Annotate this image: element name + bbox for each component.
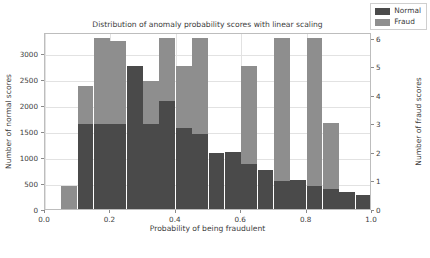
y-tick-left [41,184,44,185]
bar-normal [143,124,159,209]
x-tick [240,210,241,213]
bar-normal [339,192,355,209]
x-tick [371,210,372,213]
bar-normal [225,152,241,209]
legend-item-fraud: Fraud [375,18,421,26]
bar-normal [274,181,290,209]
y-tick-label-left: 2000 [0,101,38,110]
x-tick-label: 0.8 [300,215,311,224]
plot-area [44,33,371,210]
y-tick-label-left: 1000 [0,153,38,162]
y-tick-left [41,54,44,55]
y-tick-right [371,96,374,97]
y-tick-right [371,39,374,40]
y-tick-label-right: 5 [376,63,381,72]
legend-swatch-fraud [375,19,390,26]
y-tick-right [371,67,374,68]
y-tick-label-right: 1 [376,177,381,186]
bar-normal [159,101,175,209]
bar-normal [307,186,323,209]
y-tick-label-right: 3 [376,120,381,129]
y-tick-right [371,181,374,182]
y-tick-left [41,80,44,81]
bar-normal [192,134,208,209]
bar-fraud [61,186,77,209]
bar-fraud [307,38,323,209]
y-tick-label-left: 3000 [0,49,38,58]
legend-label-normal: Normal [394,7,421,15]
y-tick-label-left: 500 [0,179,38,188]
x-tick-label: 0.2 [104,215,115,224]
y-tick-left [41,132,44,133]
bar-normal [290,180,306,209]
y-tick-label-right: 4 [376,91,381,100]
bar-normal [110,124,126,209]
y-axis-title-right: Number of fraud scores [412,33,424,210]
x-axis-title: Probability of being fraudulent [44,224,371,233]
legend-item-normal: Normal [375,7,421,15]
y-tick-right [371,153,374,154]
bar-normal [241,164,257,209]
x-tick [175,210,176,213]
y-tick-label-right: 0 [376,206,381,215]
legend-swatch-normal [375,8,390,15]
bar-normal [323,189,339,209]
bar-normal [176,128,192,209]
y-tick-label-left: 2500 [0,75,38,84]
y-tick-left [41,106,44,107]
legend-label-fraud: Fraud [394,18,415,26]
y-tick-left [41,158,44,159]
gridline-vertical [45,34,46,209]
x-tick [109,210,110,213]
bar-normal [78,124,94,209]
x-tick-label: 0.6 [234,215,245,224]
chart-title: Distribution of anomaly probability scor… [44,20,371,29]
bar-normal [258,170,274,209]
x-tick-label: 1.0 [365,215,376,224]
bar-normal [94,124,110,209]
x-tick-label: 0.0 [38,215,49,224]
y-tick-label-left: 1500 [0,127,38,136]
y-tick-right [371,124,374,125]
y-tick-label-right: 6 [376,34,381,43]
x-tick [306,210,307,213]
x-tick [44,210,45,213]
chart-legend: Normal Fraud [370,3,427,30]
y-axis-title-right-text: Number of fraud scores [414,77,423,165]
y-tick-label-left: 0 [0,206,38,215]
bar-normal [356,195,371,209]
y-tick-label-right: 2 [376,148,381,157]
bar-normal [209,153,225,209]
x-tick-label: 0.4 [169,215,180,224]
chart-figure: Normal Fraud Distribution of anomaly pro… [0,0,430,258]
bar-normal [127,66,143,209]
